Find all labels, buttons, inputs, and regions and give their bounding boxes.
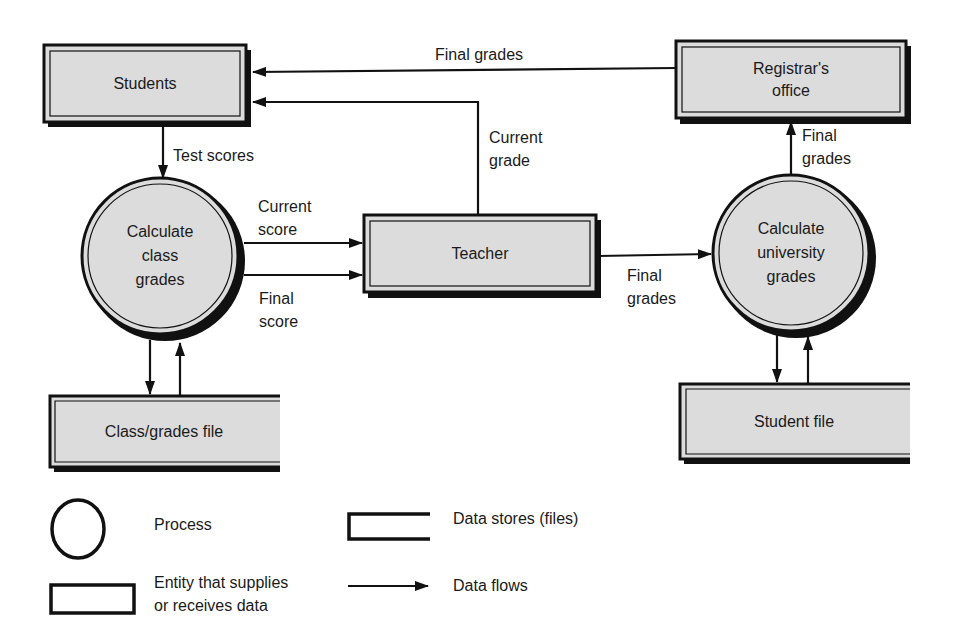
legend-entity-label: Entity that supplies or receives data [154, 571, 288, 617]
registrar-text-line2: office [772, 80, 810, 102]
class-process-line1: Calculate [127, 220, 194, 244]
teacher-final-grades-line2: grades [627, 287, 676, 310]
process-class-grades-label: Calculate class grades [90, 196, 230, 316]
flow-label-current-grade: Current grade [489, 126, 542, 172]
registrar-final-grades-line1: Final [802, 124, 851, 147]
current-score-line1: Current [258, 195, 311, 218]
university-process-line1: Calculate [758, 217, 825, 241]
legend-dataflow-label: Data flows [453, 575, 528, 596]
class-grades-file-text: Class/grades file [105, 421, 223, 443]
students-text: Students [113, 73, 176, 95]
legend-datastore-icon [349, 514, 430, 539]
legend-entity-icon [51, 585, 134, 613]
current-grade-line2: grade [489, 149, 542, 172]
entity-students-label: Students [44, 45, 246, 122]
legend-entity-line2: or receives data [154, 594, 288, 617]
registrar-final-grades-line2: grades [802, 147, 851, 170]
teacher-final-grades-line1: Final [627, 264, 676, 287]
current-score-line2: score [258, 218, 311, 241]
datastore-class-grades-label: Class/grades file [50, 396, 278, 467]
datastore-student-file-label: Student file [680, 384, 908, 459]
legend-entity-line1: Entity that supplies [154, 571, 288, 594]
flow-label-test-scores: Test scores [173, 145, 254, 166]
teacher-text: Teacher [452, 243, 509, 265]
entity-teacher-label: Teacher [364, 215, 596, 292]
university-process-line3: grades [767, 265, 816, 289]
flow-label-final-grades-top: Final grades [435, 44, 523, 65]
final-score-line2: score [259, 310, 298, 333]
university-process-line2: university [757, 241, 825, 265]
legend-process-icon [52, 500, 104, 558]
flow-label-final-grades-registrar: Final grades [802, 124, 851, 170]
legend-datastore-label: Data stores (files) [453, 508, 578, 529]
current-grade-line1: Current [489, 126, 542, 149]
legend-process-label: Process [154, 514, 212, 535]
registrar-text-line1: Registrar's [753, 58, 829, 80]
class-process-line3: grades [136, 268, 185, 292]
flow-label-final-grades-teacher: Final grades [627, 264, 676, 310]
process-university-grades-label: Calculate university grades [721, 193, 861, 313]
student-file-text: Student file [754, 411, 834, 433]
class-process-line2: class [142, 244, 178, 268]
flow-registrar-to-students [253, 68, 676, 72]
flow-label-final-score: Final score [259, 287, 298, 333]
flow-teacher-to-university-process [598, 254, 711, 256]
entity-registrar-label: Registrar's office [676, 41, 906, 118]
final-score-line1: Final [259, 287, 298, 310]
flow-label-current-score: Current score [258, 195, 311, 241]
